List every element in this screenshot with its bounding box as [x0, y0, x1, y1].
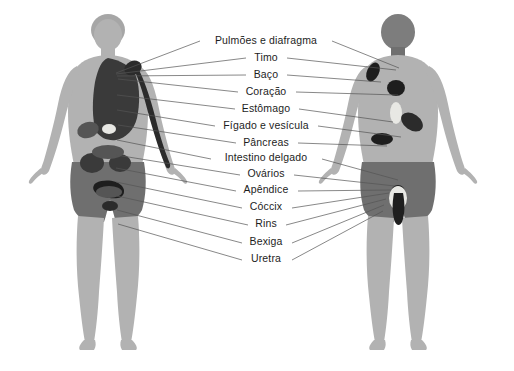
back-figure-left-hand: [319, 168, 333, 184]
label-rins: Rins: [255, 217, 277, 229]
front-figure-left-hand: [29, 168, 43, 184]
front-figure-head: [94, 19, 122, 51]
front-organ-intestine: [92, 145, 124, 159]
front-organ-stomach-light: [102, 124, 116, 134]
back-figure-right-foot: [410, 340, 426, 350]
back-figure-right-hand: [463, 168, 477, 184]
label-estomago: Estômago: [242, 102, 290, 114]
label-pancreas: Pâncreas: [243, 136, 289, 148]
label-timo: Timo: [254, 51, 278, 63]
label-ovarios: Ovários: [247, 167, 284, 179]
label-coracao: Coração: [246, 85, 287, 97]
front-figure-left-leg: [77, 216, 104, 345]
label-uretra: Uretra: [251, 252, 281, 264]
label-coccix: Cóccix: [250, 200, 283, 212]
back-figure-neck: [391, 47, 405, 56]
label-intestino-delgado: Intestino delgado: [225, 151, 308, 163]
front-figure-right-foot: [120, 340, 136, 350]
back-figure-hair: [381, 14, 415, 50]
label-baco: Baço: [254, 68, 279, 80]
front-organ-uretra: [102, 201, 118, 211]
front-figure-left-foot: [79, 340, 95, 350]
back-figure-left-leg: [367, 216, 394, 345]
label-figado-e-vesicula: Fígado e vesícula: [223, 119, 308, 131]
front-figure: [29, 14, 187, 350]
back-figure-left-foot: [369, 340, 385, 350]
leader-line-pulmoes-e-diafragma-left: [116, 41, 200, 73]
label-text-group: Pulmões e diafragmaTimoBaçoCoraçãoEstôma…: [215, 34, 317, 264]
label-pulmoes-e-diafragma: Pulmões e diafragma: [215, 34, 317, 46]
label-bexiga: Bexiga: [249, 235, 282, 247]
back-organ-sternum-light: [390, 102, 402, 124]
back-organ-heart: [387, 80, 405, 96]
label-apendice: Apêndice: [244, 183, 289, 195]
back-figure-right-leg: [402, 216, 429, 345]
organ-map-diagram: Pulmões e diafragmaTimoBaçoCoraçãoEstôma…: [0, 0, 514, 371]
front-figure-right-leg: [112, 216, 139, 345]
